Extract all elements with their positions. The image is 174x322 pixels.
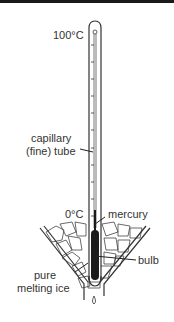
label-0c: 0°C (65, 208, 83, 220)
label-100c: 100°C (53, 29, 84, 41)
mercury-bulb (91, 230, 99, 280)
label-ice-2: melting ice (17, 282, 70, 294)
label-mercury: mercury (108, 208, 148, 220)
label-capillary-1: capillary (31, 132, 71, 144)
label-capillary-2: (fine) tube (26, 145, 76, 157)
label-bulb: bulb (138, 254, 159, 266)
thermometer-diagram (0, 0, 174, 322)
label-ice-1: pure (34, 269, 56, 281)
water-drop-icon (93, 296, 96, 304)
